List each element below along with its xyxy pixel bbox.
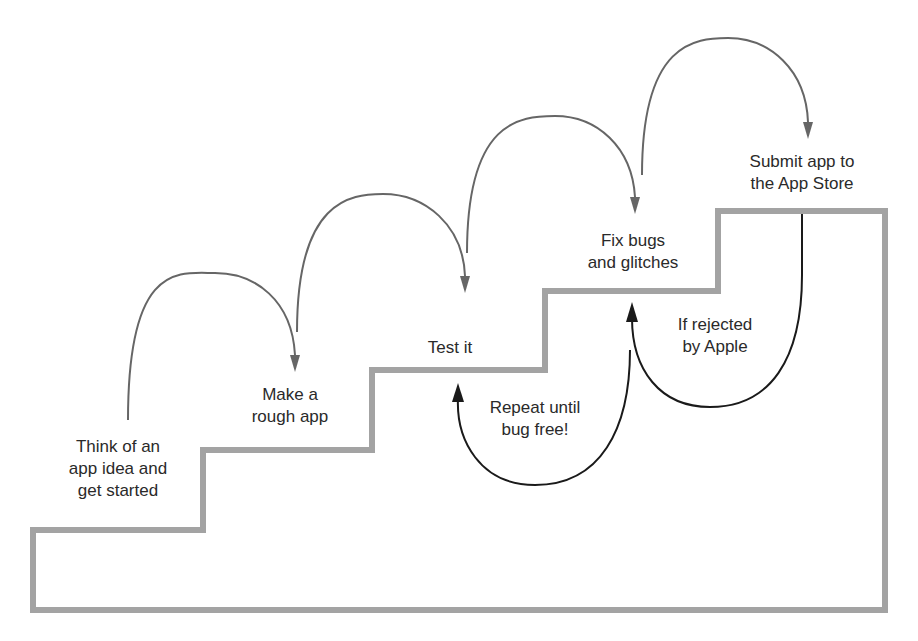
step-label-2: Make a rough app [230, 384, 350, 428]
staircase-diagram [0, 0, 918, 641]
loop-label-rejected: If rejected by Apple [655, 314, 775, 358]
step-label-4: Fix bugs and glitches [563, 230, 703, 274]
arrowhead-down-icon [630, 197, 640, 214]
loop-label-repeat: Repeat until bug free! [470, 397, 600, 441]
arrowhead-down-icon [803, 122, 813, 139]
step-label-3: Test it [400, 337, 500, 359]
arrowhead-down-icon [290, 355, 300, 372]
step-label-5: Submit app to the App Store [727, 151, 877, 195]
step-label-1: Think of an app idea and get started [48, 436, 188, 502]
arrowhead-up-icon [626, 302, 638, 322]
arrowhead-up-icon [452, 383, 464, 402]
forward-arrow-2 [297, 194, 470, 332]
arrowhead-down-icon [460, 276, 470, 293]
